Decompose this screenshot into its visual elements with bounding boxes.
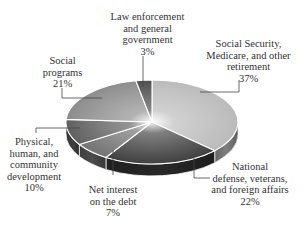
pie-highlight <box>66 80 238 164</box>
label-physical: Physical, human, and community developme… <box>0 136 68 194</box>
label-national-defense: National defense, veterans, and foreign … <box>200 161 300 207</box>
label-social-programs: Social programs 21% <box>30 55 95 90</box>
label-social-security: Social Security, Medicare, and other ret… <box>196 38 301 84</box>
label-net-interest: Net interest on the debt 7% <box>78 184 148 219</box>
label-law-enforcement: Law enforcement and general government 3… <box>100 11 195 57</box>
